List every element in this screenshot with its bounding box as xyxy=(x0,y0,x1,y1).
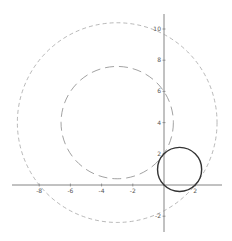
axes xyxy=(12,14,222,232)
chart-canvas: -8-6-4-22108642-2 xyxy=(0,0,232,241)
x-tick-label: -8 xyxy=(36,187,42,194)
y-tick-label: -2 xyxy=(155,212,161,219)
x-tick-label: -4 xyxy=(99,187,105,194)
x-tick-label: -6 xyxy=(67,187,73,194)
y-tick-label: 8 xyxy=(157,56,161,63)
curves xyxy=(17,23,217,223)
y-tick-label: 6 xyxy=(157,87,161,94)
y-tick-label: 4 xyxy=(157,119,161,126)
x-tick-label: 2 xyxy=(193,187,197,194)
outer-dashed-circle xyxy=(17,23,217,223)
y-tick-label: 2 xyxy=(157,150,161,157)
y-tick-label: 10 xyxy=(153,25,161,32)
x-tick-label: -2 xyxy=(130,187,136,194)
